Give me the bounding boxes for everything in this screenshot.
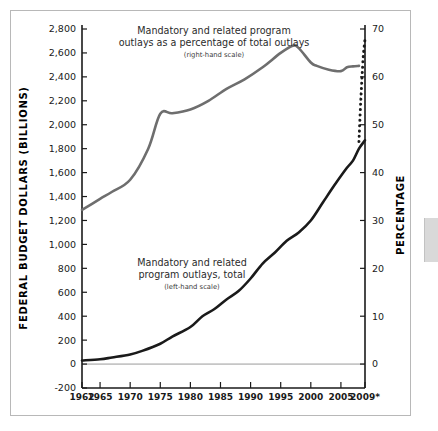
- total-series-annotation: Mandatory and relatedprogram outlays, to…: [137, 257, 247, 291]
- right-axis: 706050403020100: [360, 23, 384, 388]
- left-axis-tick-label: 2,600: [49, 47, 76, 58]
- annotation-line: Mandatory and related program: [137, 25, 291, 36]
- right-axis-tick-label: 40: [372, 167, 384, 178]
- chart-annotations: Mandatory and related programoutlays as …: [119, 25, 310, 291]
- series-line-1: [82, 45, 359, 210]
- right-axis-tick-label: 20: [372, 263, 384, 274]
- annotation-line: program outlays, total: [139, 269, 246, 280]
- axis-titles: FEDERAL BUDGET DOLLARS (BILLIONS)PERCENT…: [18, 86, 406, 329]
- bottom-axis-tick-label: 1970: [118, 392, 143, 402]
- left-axis-tick-label: 600: [58, 287, 76, 298]
- bottom-axis-tick-label: 1975: [148, 392, 173, 402]
- left-axis-tick-label: 1,800: [49, 143, 76, 154]
- left-axis-tick-label: 1,600: [49, 167, 76, 178]
- left-axis-tick-label: 2,800: [49, 23, 76, 34]
- annotation-scale-note: (right-hand scale): [184, 51, 245, 59]
- right-axis-tick-label: 60: [372, 71, 384, 82]
- bottom-axis-tick-label: 2000: [298, 392, 323, 402]
- series-line-2: [359, 40, 365, 142]
- plot-area: 2,8002,6002,4002,2002,0001,8001,6001,400…: [18, 23, 406, 402]
- right-axis-tick-label: 70: [372, 23, 384, 34]
- annotation-line: Mandatory and related: [137, 257, 247, 268]
- right-axis-tick-label: 10: [372, 311, 384, 322]
- right-axis-tick-label: 50: [372, 119, 384, 130]
- left-axis: 2,8002,6002,4002,2002,0001,8001,6001,400…: [49, 23, 87, 393]
- annotation-line: outlays as a percentage of total outlays: [119, 37, 310, 48]
- bottom-axis-tick-label: 2009*: [350, 392, 380, 402]
- series-line-0: [82, 140, 365, 360]
- left-axis-tick-label: 1,400: [49, 191, 76, 202]
- bottom-axis-tick-label: 1990: [238, 392, 263, 402]
- left-axis-tick-label: 2,000: [49, 119, 76, 130]
- left-axis-tick-label: 400: [58, 311, 76, 322]
- left-axis-tick-label: 0: [70, 358, 76, 369]
- bottom-axis-tick-label: 1995: [268, 392, 293, 402]
- left-axis-tick-label: 2,200: [49, 95, 76, 106]
- bottom-axis-tick-label: 1965: [88, 392, 113, 402]
- left-axis-tick-label: 800: [58, 263, 76, 274]
- left-axis-tick-label: 2,400: [49, 71, 76, 82]
- bottom-axis-tick-label: 1980: [178, 392, 203, 402]
- left-axis-tick-label: 1,000: [49, 239, 76, 250]
- left-axis-tick-label: 200: [58, 335, 76, 346]
- annotation-scale-note: (left-hand scale): [164, 283, 220, 291]
- right-axis-tick-label: 0: [372, 358, 378, 369]
- bottom-axis-tick-label: 1985: [208, 392, 233, 402]
- right-axis-tick-label: 30: [372, 215, 384, 226]
- left-axis-title: FEDERAL BUDGET DOLLARS (BILLIONS): [18, 86, 29, 329]
- series-lines: [82, 40, 365, 361]
- left-axis-tick-label: 1,200: [49, 215, 76, 226]
- right-axis-title: PERCENTAGE: [395, 175, 406, 255]
- bottom-axis: 1962196519701975198019851990199520002005…: [69, 382, 380, 402]
